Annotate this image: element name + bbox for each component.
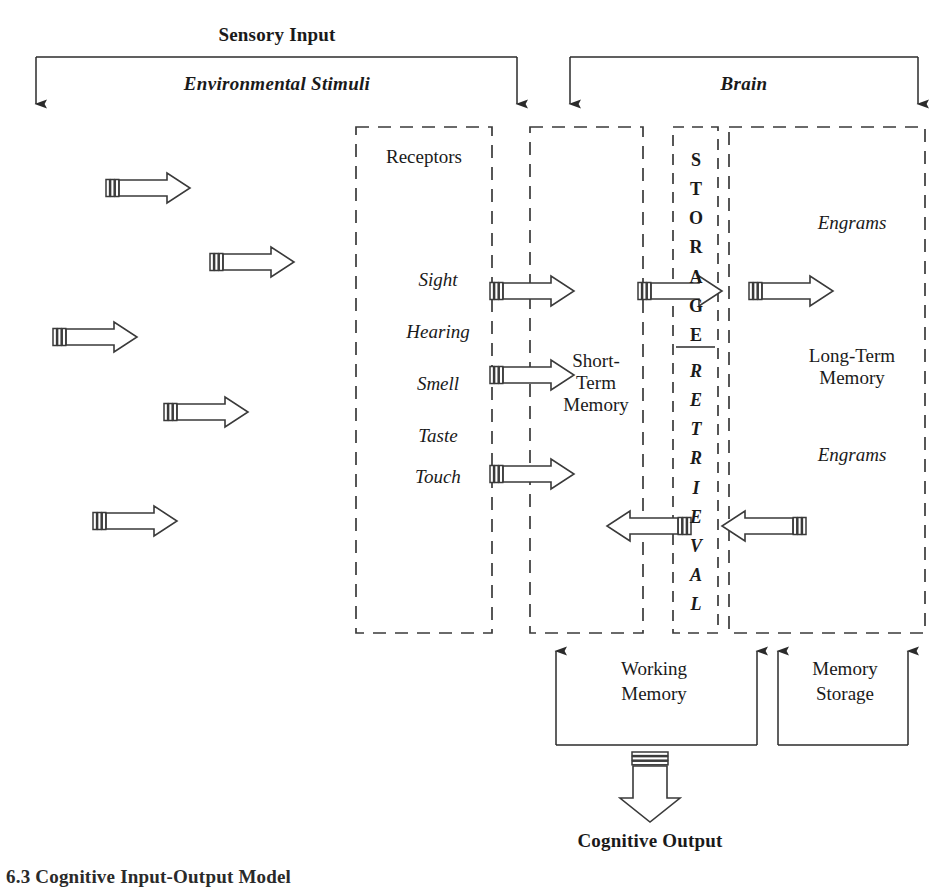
receptors-title: Receptors	[386, 146, 462, 167]
vertical-letter: L	[690, 590, 702, 619]
arrow-touch-to-stm	[490, 459, 574, 489]
vertical-letter: R	[690, 357, 702, 386]
vertical-letter: T	[690, 415, 702, 444]
stimulus-arrow-4	[164, 397, 248, 427]
stimulus-arrow-1	[106, 173, 190, 203]
stimulus-arrow-5	[93, 506, 177, 536]
sense-taste: Taste	[418, 425, 457, 446]
vertical-letter: G	[689, 292, 703, 321]
vertical-letter: E	[690, 503, 702, 532]
long-term-memory-line-2: Memory	[819, 367, 884, 388]
short-term-memory-line-1: Short-	[572, 350, 620, 371]
sensory-input-title: Sensory Input	[218, 24, 335, 45]
figure-caption: 6.3 Cognitive Input-Output Model	[6, 866, 291, 887]
memory-storage-line-2: Storage	[816, 683, 874, 704]
working-memory-line-1: Working	[621, 658, 687, 679]
stimulus-arrow-2	[210, 247, 294, 277]
group-label-environmental-stimuli: Environmental Stimuli	[184, 73, 370, 94]
sense-touch: Touch	[415, 466, 461, 487]
vertical-letter: T	[689, 175, 703, 204]
arrow-sight-to-stm	[490, 276, 574, 306]
vertical-letter: A	[689, 263, 703, 292]
vertical-letter: R	[690, 444, 702, 473]
arrow-smell-to-stm	[490, 360, 574, 390]
vertical-letter: I	[690, 474, 702, 503]
stimulus-arrow-3	[53, 322, 137, 352]
memory-storage-line-1: Memory	[812, 658, 877, 679]
vertical-letter: R	[689, 233, 703, 262]
engrams-top: Engrams	[818, 212, 887, 233]
cognitive-output-label: Cognitive Output	[577, 830, 722, 851]
arrow-retrieval-to-stm	[607, 511, 691, 541]
working-memory-line-2: Memory	[621, 683, 686, 704]
cognitive-output-arrow	[620, 752, 680, 822]
vertical-letter: A	[690, 561, 702, 590]
sense-hearing: Hearing	[406, 321, 469, 342]
vertical-letter: E	[690, 386, 702, 415]
arrow-ltm-to-retrieval	[722, 511, 806, 541]
short-term-memory-line-3: Memory	[563, 394, 628, 415]
vertical-letter: O	[689, 204, 703, 233]
short-term-memory-line-2: Term	[576, 372, 616, 393]
sense-smell: Smell	[417, 373, 459, 394]
vertical-letter: E	[689, 321, 703, 350]
sense-sight: Sight	[418, 269, 457, 290]
group-label-brain: Brain	[721, 73, 768, 94]
vertical-letter: V	[690, 532, 702, 561]
storage-vertical-label: STORAGE	[689, 146, 703, 350]
vertical-letter: S	[689, 146, 703, 175]
retrieval-vertical-label: RETRIEVAL	[690, 357, 702, 619]
arrow-storage-to-ltm	[749, 276, 833, 306]
engrams-bottom: Engrams	[818, 444, 887, 465]
arrow-stm-to-storage	[638, 276, 722, 306]
long-term-memory-line-1: Long-Term	[809, 345, 895, 366]
